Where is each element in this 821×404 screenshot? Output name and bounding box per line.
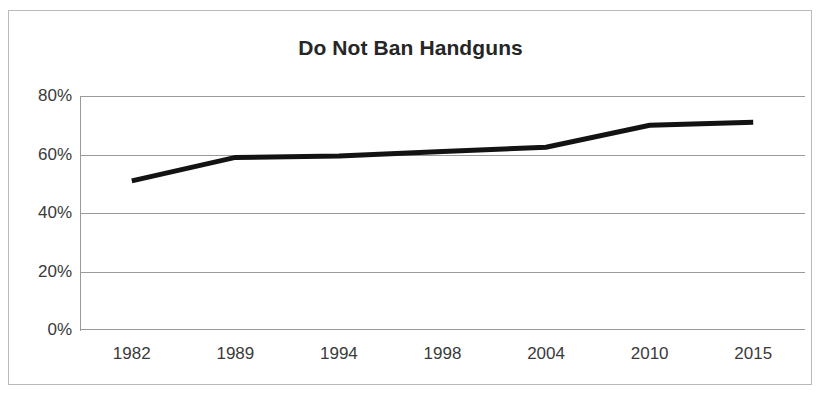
x-tick-label-2010: 2010 [631,344,669,364]
x-tick-label-2015: 2015 [734,344,772,364]
plot-area [80,96,805,330]
series-line-do-not-ban-handguns [132,122,753,181]
x-tick-label-1998: 1998 [424,344,462,364]
x-axis-tick-labels: 1982198919941998200420102015 [80,344,805,370]
chart-figure: Do Not Ban Handguns 0%20%40%60%80% 19821… [0,0,821,404]
chart-title: Do Not Ban Handguns [0,36,821,60]
y-tick-label-0%: 0% [10,320,72,340]
x-tick-label-1989: 1989 [216,344,254,364]
y-tick-label-60%: 60% [10,145,72,165]
x-tick-label-1994: 1994 [320,344,358,364]
y-tick-label-40%: 40% [10,203,72,223]
y-tick-label-80%: 80% [10,86,72,106]
x-tick-label-2004: 2004 [527,344,565,364]
y-tick-label-20%: 20% [10,262,72,282]
y-axis-tick-labels: 0%20%40%60%80% [4,96,72,330]
x-tick-label-1982: 1982 [113,344,151,364]
series-plot [80,96,805,330]
